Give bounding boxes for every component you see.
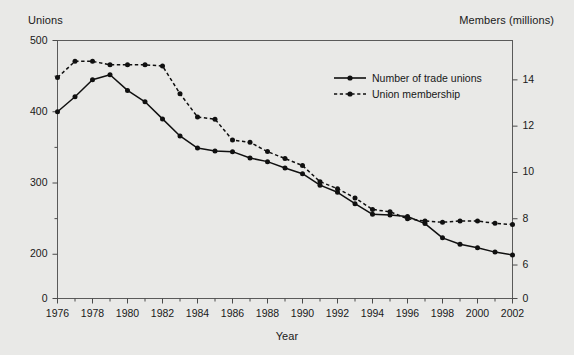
data-point-marker: [230, 138, 235, 143]
data-point-marker: [195, 114, 200, 119]
data-point-marker: [143, 62, 148, 67]
data-point-marker: [213, 148, 218, 153]
data-point-marker: [160, 116, 165, 121]
x-tick-label: 1998: [423, 307, 463, 319]
data-point-marker: [178, 133, 183, 138]
data-point-marker: [73, 94, 78, 99]
data-point-marker: [510, 222, 515, 227]
legend-key-solid: [333, 72, 367, 84]
x-tick-label: 1994: [353, 307, 393, 319]
right-tick-label: 14: [523, 73, 557, 85]
data-point-marker: [405, 216, 410, 221]
right-tick-label: 0: [523, 292, 557, 304]
x-tick-label: 1990: [283, 307, 323, 319]
left-tick-label: 300: [14, 176, 48, 188]
data-point-marker: [300, 171, 305, 176]
x-tick-label: 1982: [143, 307, 183, 319]
legend-label-union-membership: Union membership: [372, 86, 460, 102]
x-tick-label: 1992: [318, 307, 358, 319]
x-tick-label: 1984: [178, 307, 218, 319]
x-tick-label: 1986: [213, 307, 253, 319]
data-point-marker: [108, 62, 113, 67]
x-tick-label: 2000: [458, 307, 498, 319]
data-point-marker: [108, 72, 113, 77]
data-point-marker: [440, 235, 445, 240]
data-point-marker: [213, 117, 218, 122]
data-point-marker: [370, 207, 375, 212]
right-tick-label: 12: [523, 119, 557, 131]
x-tick-label: 1988: [248, 307, 288, 319]
right-tick-label: 10: [523, 165, 557, 177]
data-point-marker: [73, 59, 78, 64]
data-point-marker: [388, 209, 393, 214]
data-point-marker: [510, 252, 515, 257]
data-point-marker: [283, 156, 288, 161]
data-point-marker: [55, 109, 60, 114]
data-point-marker: [248, 140, 253, 145]
x-tick-label: 1980: [108, 307, 148, 319]
data-point-marker: [195, 146, 200, 151]
right-axis-ticks: [513, 80, 518, 299]
right-tick-label: 6: [523, 258, 557, 270]
data-point-marker: [440, 220, 445, 225]
data-point-marker: [353, 201, 358, 206]
data-point-marker: [493, 250, 498, 255]
right-tick-label: 8: [523, 212, 557, 224]
data-point-marker: [493, 221, 498, 226]
data-point-marker: [458, 219, 463, 224]
x-axis-title: Year: [0, 330, 574, 342]
left-tick-label: 0: [14, 292, 48, 304]
data-point-marker: [423, 219, 428, 224]
data-point-marker: [370, 212, 375, 217]
data-point-marker: [318, 179, 323, 184]
data-point-marker: [248, 156, 253, 161]
legend-item: Number of trade unions: [333, 70, 482, 86]
chart-figure: Unions Members (millions) 0200300400500 …: [0, 0, 574, 355]
data-point-marker: [300, 163, 305, 168]
left-tick-label: 400: [14, 105, 48, 117]
data-point-marker: [178, 91, 183, 96]
legend-key-dashed: [333, 88, 367, 100]
data-point-marker: [55, 75, 60, 80]
data-point-marker: [353, 195, 358, 200]
plot-area: [0, 0, 574, 355]
data-point-marker: [475, 219, 480, 224]
x-tick-label: 1976: [38, 307, 78, 319]
data-point-marker: [458, 242, 463, 247]
x-tick-label: 1978: [73, 307, 113, 319]
data-point-marker: [125, 88, 130, 93]
data-point-marker: [265, 159, 270, 164]
data-point-marker: [475, 245, 480, 250]
left-tick-label: 200: [14, 247, 48, 259]
data-point-marker: [160, 63, 165, 68]
legend-item: Union membership: [333, 86, 482, 102]
x-tick-label: 1996: [388, 307, 428, 319]
bottom-axis-ticks: [58, 299, 513, 304]
chart-legend: Number of trade unions Union membership: [333, 70, 482, 102]
data-point-marker: [335, 186, 340, 191]
legend-label-trade-unions: Number of trade unions: [372, 70, 482, 86]
x-tick-label: 2002: [493, 307, 533, 319]
data-point-marker: [283, 166, 288, 171]
data-point-marker: [143, 99, 148, 104]
data-point-marker: [90, 59, 95, 64]
left-tick-label: 500: [14, 34, 48, 46]
data-point-marker: [125, 62, 130, 67]
data-point-marker: [90, 77, 95, 82]
data-point-marker: [230, 149, 235, 154]
data-point-marker: [265, 149, 270, 154]
